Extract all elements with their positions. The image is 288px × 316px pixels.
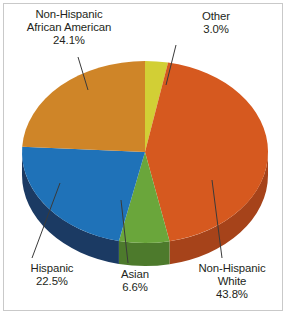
slice-label-white-line1: Non-Hispanic: [198, 262, 265, 274]
pie-top-faces: [22, 61, 268, 243]
slice-label-white-line2: White: [218, 275, 247, 287]
slice-label-african-american: Non-Hispanic African American 24.1%: [8, 8, 130, 46]
slice-value-other: 3.0%: [185, 23, 247, 36]
slice-label-other: Other 3.0%: [185, 10, 247, 36]
slice-label-asian: Asian 6.6%: [100, 268, 170, 294]
slice-label-hispanic: Hispanic 22.5%: [6, 262, 98, 288]
slice-value-asian: 6.6%: [100, 281, 170, 294]
slice-label-non-hispanic-white: Non-Hispanic White 43.8%: [182, 262, 282, 300]
slice-value-hispanic: 22.5%: [6, 275, 98, 288]
slice-label-african-american-line1: Non-Hispanic: [35, 8, 102, 20]
slice-label-other-line1: Other: [202, 10, 230, 22]
slice-value-african-american: 24.1%: [8, 34, 130, 47]
slice-label-african-american-line2: African American: [27, 21, 112, 33]
pie-chart: Non-Hispanic African American 24.1% Othe…: [0, 0, 288, 316]
slice-label-hispanic-line1: Hispanic: [31, 262, 74, 274]
slice-value-white: 43.8%: [182, 288, 282, 301]
slice-label-asian-line1: Asian: [121, 268, 149, 280]
